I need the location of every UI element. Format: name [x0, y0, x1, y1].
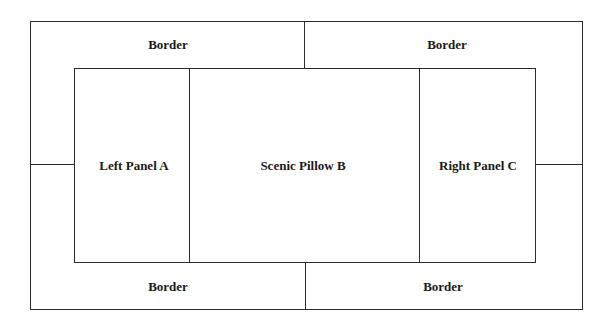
panel-divider-right	[419, 68, 420, 263]
border-divider-left	[30, 164, 75, 165]
border-label-bottom-right: Border	[423, 279, 463, 295]
inner-top-line	[74, 68, 536, 69]
left-panel-label: Left Panel A	[99, 158, 168, 174]
border-label-top-right: Border	[427, 37, 467, 53]
outer-left-line	[30, 21, 31, 310]
right-panel-label: Right Panel C	[439, 158, 517, 174]
border-divider-right	[535, 164, 583, 165]
border-divider-top	[304, 21, 305, 69]
inner-left-line	[74, 68, 75, 263]
border-label-top-left: Border	[148, 37, 188, 53]
panel-divider-left	[189, 68, 190, 263]
border-divider-bottom	[305, 262, 306, 310]
border-label-bottom-left: Border	[148, 279, 188, 295]
outer-top-line	[30, 21, 583, 22]
center-panel-label: Scenic Pillow B	[260, 158, 345, 174]
inner-right-line	[535, 68, 536, 263]
outer-bottom-line	[30, 309, 583, 310]
outer-right-line	[582, 21, 583, 310]
